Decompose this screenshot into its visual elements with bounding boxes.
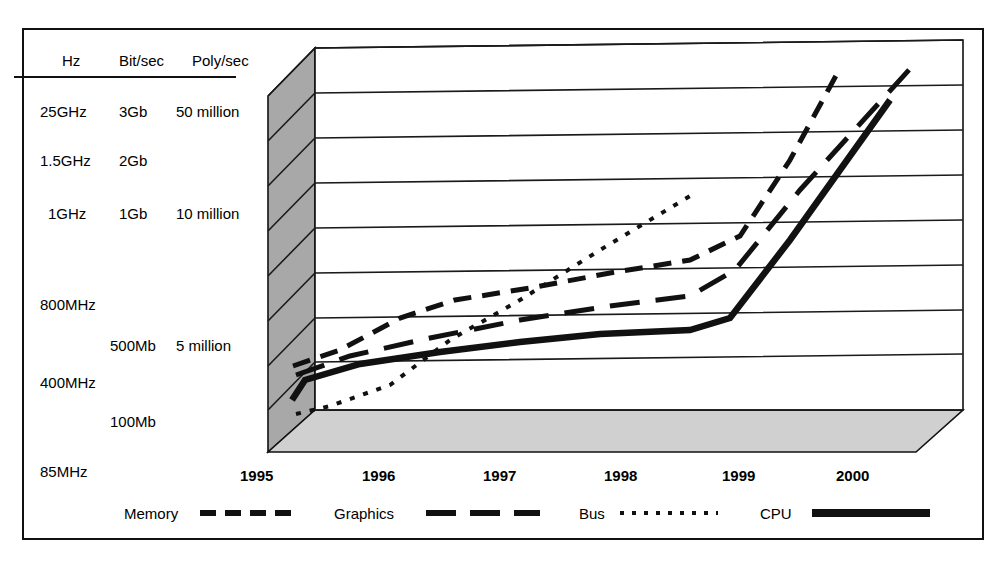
legend-swatches — [0, 0, 1006, 563]
chart-figure: Hz Bit/sec Poly/sec 25GHz 3Gb 50 million… — [0, 0, 1006, 563]
